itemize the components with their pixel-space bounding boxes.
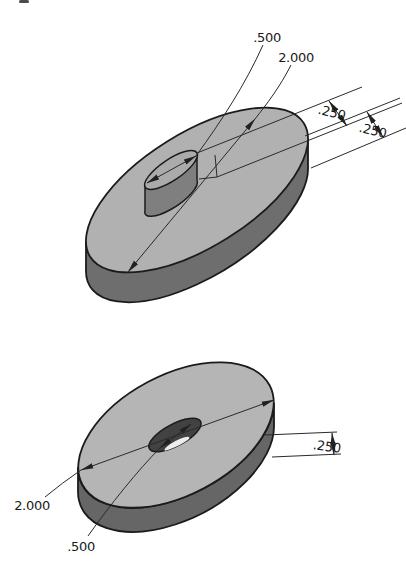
iso-drawing: .500 2.000 .250 .250 2.000 .500 .250 <box>0 0 406 576</box>
extension-line-bottom-disk-top <box>265 432 337 435</box>
dim-label-hole-diameter: .500 <box>67 539 95 554</box>
dim-label-bottom-disk-thickness: .250 <box>312 437 342 456</box>
dim-label-boss-height: .250 <box>317 102 348 123</box>
dim-label-top-disk-diameter: 2.000 <box>278 50 314 65</box>
dim-label-bottom-disk-diameter: 2.000 <box>14 498 50 513</box>
leader-bottom-disk-diameter <box>45 470 81 497</box>
cropped-artifact <box>19 0 29 3</box>
dim-label-top-disk-thickness: .250 <box>358 120 389 141</box>
dim-label-boss-diameter: .500 <box>253 30 281 45</box>
top-part-disk-with-boss <box>60 75 334 305</box>
drawing-canvas: .500 2.000 .250 .250 2.000 .500 .250 <box>0 0 406 576</box>
